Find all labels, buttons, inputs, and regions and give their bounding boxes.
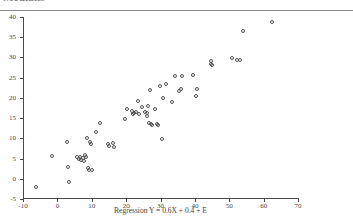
data-point [145,114,149,118]
data-point [170,100,174,104]
x-axis-tick: 50 [229,198,230,202]
data-point [179,87,183,91]
data-point [34,185,38,189]
data-point [148,88,152,92]
data-point [150,123,154,127]
data-point [160,137,164,141]
data-point [84,155,88,159]
data-point [195,87,199,91]
y-axis-tick-label: 15 [9,115,16,122]
data-point [65,140,69,144]
y-axis-line [23,17,24,199]
data-point [137,112,141,116]
x-axis-tick: 70 [298,198,299,202]
data-point [194,94,198,98]
y-axis-tick: 20 [20,98,24,99]
data-point [238,58,242,62]
y-axis-tick-label: 0 [13,175,17,182]
data-point [140,105,144,109]
scatter-plot-figure: -50510152025303540 -10010203040506070 Re… [0,11,353,218]
data-point [146,104,150,108]
y-axis-tick-label: 30 [9,54,16,61]
y-axis-tick-label: 20 [9,94,16,101]
y-axis-tick: 5 [20,159,24,160]
data-point [82,159,86,163]
y-axis-tick-label: -5 [10,196,16,203]
data-point [153,107,157,111]
data-point [66,165,70,169]
y-axis-tick: 40 [20,17,24,18]
data-point [98,121,102,125]
x-axis-title: Regression Y = 0.6X + 0.4 + E [23,207,298,215]
y-axis-tick: 15 [20,118,24,119]
y-axis-tick: 10 [20,138,24,139]
y-axis-tick: 30 [20,57,24,58]
x-axis-tick: 0 [57,198,58,202]
data-point [94,130,98,134]
y-axis-tick: 35 [20,37,24,38]
y-axis-tick-label: 40 [9,14,16,21]
y-axis-tick-label: 25 [9,74,16,81]
data-point [125,107,129,111]
data-point [173,74,177,78]
data-point [50,154,54,158]
data-point [90,168,94,172]
plot-area: -50510152025303540 -10010203040506070 [23,17,298,199]
y-axis-tick-label: 5 [13,155,17,162]
data-point [161,96,165,100]
data-point [230,56,234,60]
x-axis-tick: 10 [92,198,93,202]
data-point [123,117,127,121]
data-point [241,29,245,33]
x-axis-tick: 30 [161,198,162,202]
data-point [89,142,93,146]
y-axis-tick-label: 10 [9,135,16,142]
data-point [210,63,214,67]
y-axis-tick-label: 35 [9,34,16,41]
data-point [156,123,160,127]
x-axis-tick: 60 [264,198,265,202]
data-point [112,145,116,149]
x-axis-tick: 40 [195,198,196,202]
data-point [270,20,274,24]
data-point [67,180,71,184]
data-point [136,99,140,103]
data-point [107,144,111,148]
clipped-heading: Medians [3,0,45,3]
y-axis-tick: 25 [20,78,24,79]
data-point [164,82,168,86]
data-point [191,73,195,77]
y-axis-tick: 0 [20,179,24,180]
data-point [158,84,162,88]
data-point [180,74,184,78]
x-axis-tick: 20 [126,198,127,202]
x-axis-tick: -10 [23,198,24,202]
